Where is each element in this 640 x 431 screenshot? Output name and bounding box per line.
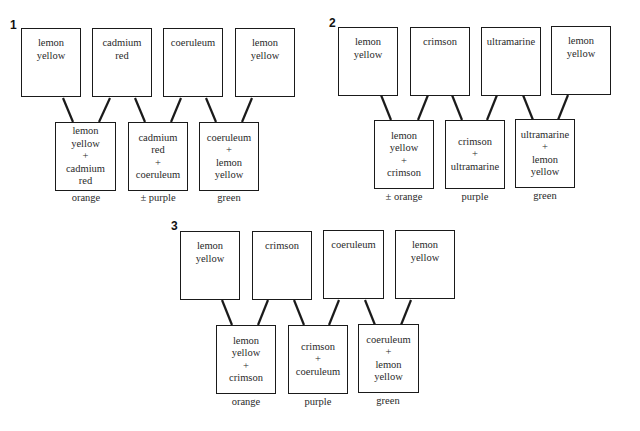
box-text: + [375, 155, 433, 168]
box-text: ultramarine [446, 161, 504, 174]
diagram-number: 2 [329, 16, 336, 30]
mix-box: crimson + ultramarine [445, 120, 505, 189]
box-text: coeruleum [129, 169, 187, 182]
box-text: + [129, 157, 187, 170]
box-text: yellow [552, 48, 610, 61]
result-label: orange [211, 396, 281, 407]
box-text: crimson [411, 36, 469, 49]
box-text: cadmium [56, 163, 115, 176]
box-text: lemon [181, 240, 239, 253]
diagram-number: 1 [10, 18, 17, 32]
box-text: yellow [22, 50, 80, 63]
result-label: ± purple [123, 192, 193, 203]
box-text: yellow [359, 371, 418, 384]
box-text: yellow [396, 252, 454, 265]
source-box: cadmium red [92, 28, 152, 97]
box-text: coeruleum [359, 334, 418, 347]
box-text: lemon [396, 239, 454, 252]
box-text: coeruleum [164, 37, 222, 50]
box-text: + [446, 148, 504, 161]
box-text: lemon [200, 157, 258, 170]
box-text: lemon [552, 35, 610, 48]
source-box: lemon yellow [21, 28, 81, 97]
result-label: green [510, 190, 580, 201]
result-label: orange [51, 192, 121, 203]
box-text: lemon [375, 130, 433, 143]
box-text: lemon [236, 37, 294, 50]
box-text: yellow [56, 138, 115, 151]
box-text: lemon [359, 359, 418, 372]
box-text: crimson [289, 341, 347, 354]
box-text: + [217, 360, 275, 373]
mix-box: cadmium red + coeruleum [128, 122, 188, 191]
mix-box: coeruleum + lemon yellow [358, 324, 419, 393]
box-text: lemon [56, 125, 115, 138]
box-text: + [56, 150, 115, 163]
result-label: green [353, 395, 423, 406]
box-text: ultramarine [482, 36, 540, 49]
box-text: yellow [375, 142, 433, 155]
box-text: + [359, 346, 418, 359]
mix-box: crimson + coeruleum [288, 325, 348, 394]
box-text: cadmium [129, 132, 187, 145]
source-box: coeruleum [323, 230, 384, 299]
result-label: ± orange [369, 191, 439, 202]
result-label: green [194, 192, 264, 203]
source-box: ultramarine [481, 27, 541, 96]
box-text: + [289, 353, 347, 366]
box-text: coeruleum [200, 132, 258, 145]
box-text: yellow [339, 49, 397, 62]
mix-box: lemon yellow + cadmium red [55, 122, 116, 191]
box-text: yellow [181, 253, 239, 266]
box-text: lemon [22, 37, 80, 50]
box-text: yellow [516, 166, 574, 179]
result-label: purple [440, 191, 510, 202]
box-text: lemon [217, 335, 275, 348]
box-text: red [93, 50, 151, 63]
source-box: coeruleum [163, 28, 223, 97]
mix-box: ultramarine + lemon yellow [515, 119, 575, 188]
box-text: + [200, 144, 258, 157]
mix-box: coeruleum + lemon yellow [199, 122, 259, 191]
box-text: red [56, 175, 115, 188]
mix-box: lemon yellow + crimson [374, 120, 434, 189]
box-text: cadmium [93, 37, 151, 50]
box-text: red [129, 144, 187, 157]
color-mixing-figure: 1 lemon yellow cadmium red coeruleum lem… [0, 0, 640, 431]
mix-box: lemon yellow + crimson [216, 325, 276, 394]
box-text: coeruleum [324, 239, 383, 252]
source-box: lemon yellow [338, 27, 398, 96]
box-text: crimson [375, 167, 433, 180]
box-text: ultramarine [516, 129, 574, 142]
source-box: crimson [252, 231, 312, 300]
source-box: lemon yellow [235, 28, 295, 97]
box-text: crimson [446, 136, 504, 149]
box-text: yellow [236, 50, 294, 63]
box-text: crimson [217, 372, 275, 385]
box-text: yellow [200, 169, 258, 182]
box-text: coeruleum [289, 366, 347, 379]
diagram-number: 3 [171, 219, 178, 233]
source-box: lemon yellow [551, 26, 611, 95]
source-box: lemon yellow [180, 231, 240, 300]
box-text: lemon [339, 36, 397, 49]
box-text: lemon [516, 154, 574, 167]
box-text: yellow [217, 347, 275, 360]
box-text: crimson [253, 240, 311, 253]
box-text: + [516, 141, 574, 154]
result-label: purple [283, 396, 353, 407]
source-box: crimson [410, 27, 470, 96]
source-box: lemon yellow [395, 230, 455, 299]
